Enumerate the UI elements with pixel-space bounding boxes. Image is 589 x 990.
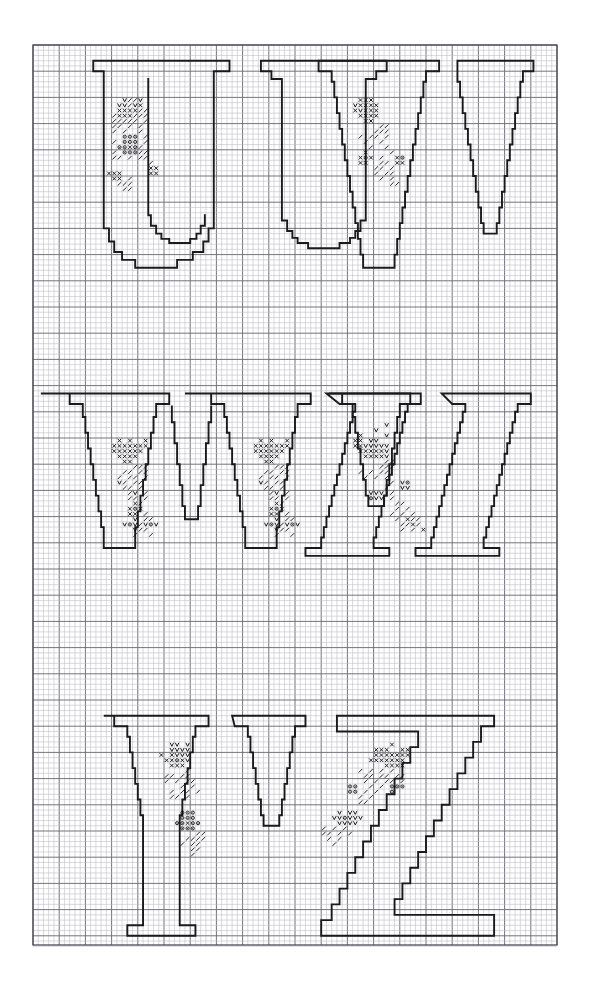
alphabet-chart-svg	[0, 0, 589, 990]
chart-sheet	[0, 0, 589, 990]
graph-paper-grid	[33, 45, 557, 946]
